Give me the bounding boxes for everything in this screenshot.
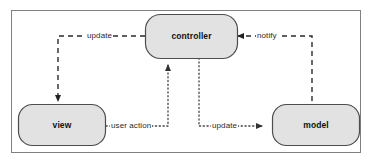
node-label-model: model — [272, 120, 360, 130]
diagram-canvas — [0, 0, 372, 163]
node-label-view: view — [18, 120, 106, 130]
edge-label-notify: notify — [256, 31, 278, 40]
edge-label-user-action: user action — [110, 121, 152, 130]
edge-label-update-controller-model: update — [211, 121, 238, 130]
node-label-controller: controller — [145, 31, 238, 41]
mvc-diagram: controller view model update notify user… — [0, 0, 372, 163]
edge-label-update-controller-view: update — [86, 31, 113, 40]
